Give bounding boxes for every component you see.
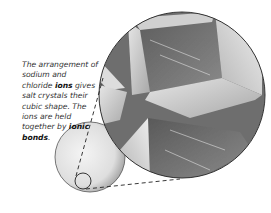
magnified-crystal-view bbox=[99, 12, 265, 178]
caption-text: The arrangement of sodium and chloride i… bbox=[22, 60, 98, 143]
caption-part: . bbox=[48, 133, 50, 142]
term-ions: ions bbox=[55, 81, 73, 90]
